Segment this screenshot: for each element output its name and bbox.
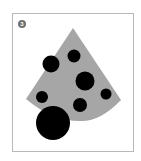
figure-canvas: 3 — [0, 0, 141, 161]
black-circle-3 — [76, 72, 95, 91]
black-circle-5 — [101, 89, 112, 100]
black-circle-4 — [36, 91, 48, 103]
black-circle-6 — [73, 98, 87, 112]
black-circle-1 — [43, 56, 60, 73]
black-circle-2 — [68, 50, 81, 63]
black-circle-7 — [36, 106, 70, 140]
number-badge: 3 — [18, 20, 26, 28]
